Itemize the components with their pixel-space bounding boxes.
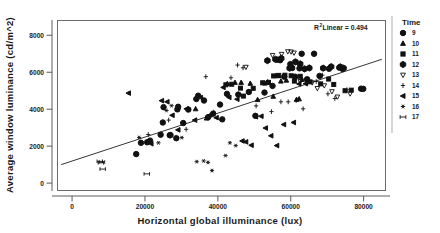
x-axis-title: Horizontal global illuminance (lux) <box>137 215 302 226</box>
data-point <box>314 79 318 84</box>
data-point <box>229 75 233 80</box>
data-point <box>204 74 208 79</box>
data-point <box>138 140 143 145</box>
data-point <box>181 120 186 125</box>
data-point <box>159 98 164 103</box>
x-axis-tick-labels: 020000400006000080000 <box>70 203 373 210</box>
data-point <box>292 79 296 83</box>
data-point <box>286 99 290 104</box>
legend-item-14[interactable]: 14 <box>401 82 420 89</box>
data-point <box>184 107 189 112</box>
y-axis: 02000400060008000 <box>29 20 52 191</box>
data-point <box>311 51 316 56</box>
data-point <box>228 141 232 145</box>
data-point <box>206 161 210 165</box>
data-point <box>221 85 226 90</box>
data-point <box>267 80 271 84</box>
data-point <box>240 139 245 144</box>
data-point <box>160 120 165 125</box>
x-axis-ticks <box>72 196 364 202</box>
data-point <box>361 86 366 91</box>
data-point <box>330 90 335 94</box>
x-axis: 020000400006000080000 <box>52 196 390 210</box>
x-tick-label: 60000 <box>282 203 301 210</box>
data-point <box>268 133 273 138</box>
legend-item-9[interactable]: 9 <box>400 29 416 36</box>
data-point <box>281 122 286 127</box>
legend-item-label: 11 <box>412 50 419 57</box>
data-point <box>169 104 173 108</box>
data-point <box>262 90 267 95</box>
y-axis-ticks <box>47 35 53 183</box>
legend-item-11[interactable]: 11 <box>401 50 419 57</box>
data-point <box>277 73 281 77</box>
data-point <box>174 135 179 140</box>
legend-item-10[interactable]: 10 <box>401 40 420 47</box>
data-point <box>298 74 302 78</box>
data-point <box>326 91 330 96</box>
data-point <box>180 136 184 140</box>
data-point <box>251 86 255 90</box>
y-axis-title: Average window luminance (cd/m^2) <box>4 17 15 193</box>
data-point <box>241 94 245 98</box>
data-point <box>297 82 302 87</box>
y-tick-label: 4000 <box>29 106 44 113</box>
data-point <box>291 120 296 125</box>
series-12 <box>265 55 347 72</box>
series-16 <box>137 104 238 172</box>
data-point <box>175 104 180 109</box>
data-point <box>274 143 279 148</box>
data-point <box>230 82 234 86</box>
data-point <box>341 65 346 71</box>
scatter-plot-figure: 02000400060008000 020000400006000080000 … <box>0 0 440 233</box>
data-point <box>100 167 105 171</box>
data-point <box>176 128 181 133</box>
chart-canvas: 02000400060008000 020000400006000080000 … <box>0 0 440 233</box>
legend-item-label: 14 <box>412 82 420 89</box>
data-point <box>317 73 322 78</box>
legend-title: Time <box>402 18 421 27</box>
data-point <box>217 102 222 107</box>
data-point <box>167 118 171 123</box>
legend-item-label: 10 <box>412 40 420 47</box>
series-17 <box>97 160 149 176</box>
legend-item-label: 9 <box>412 29 416 36</box>
y-tick-label: 6000 <box>29 69 44 76</box>
y-tick-label: 8000 <box>29 32 44 39</box>
data-point <box>126 91 131 96</box>
legend-item-label: 13 <box>412 71 420 78</box>
legend-item-12[interactable]: 12 <box>400 61 419 68</box>
x-tick-label: 0 <box>70 203 74 210</box>
data-point <box>259 114 264 119</box>
legend-item-17[interactable]: 17 <box>400 113 419 120</box>
data-point <box>210 169 214 173</box>
legend-item-16[interactable]: 16 <box>401 103 420 110</box>
data-point <box>223 154 227 158</box>
y-tick-label: 2000 <box>29 143 44 150</box>
legend-item-label: 17 <box>412 113 420 120</box>
series-11 <box>224 73 353 98</box>
r-squared-annotation: R 2 Linear = 0.494 <box>314 23 368 32</box>
data-point <box>193 106 198 110</box>
data-point <box>292 51 297 55</box>
data-points-layer <box>97 50 366 176</box>
legend-item-13[interactable]: 13 <box>401 71 420 78</box>
legend-item-label: 16 <box>412 103 420 110</box>
legend-items: 91011121314151617 <box>400 29 419 120</box>
data-point <box>165 99 170 104</box>
data-point <box>133 151 138 156</box>
data-point <box>273 56 278 62</box>
series-15 <box>126 81 308 148</box>
data-point <box>263 126 268 131</box>
data-point <box>239 80 244 84</box>
data-point <box>269 109 273 114</box>
data-point <box>235 97 240 102</box>
data-point <box>236 92 241 97</box>
data-point <box>202 159 206 163</box>
data-point <box>156 141 160 145</box>
data-point <box>261 81 265 85</box>
data-point <box>299 51 304 56</box>
data-point <box>315 87 320 91</box>
legend-item-15[interactable]: 15 <box>400 92 419 99</box>
x-tick-label: 80000 <box>354 203 373 210</box>
